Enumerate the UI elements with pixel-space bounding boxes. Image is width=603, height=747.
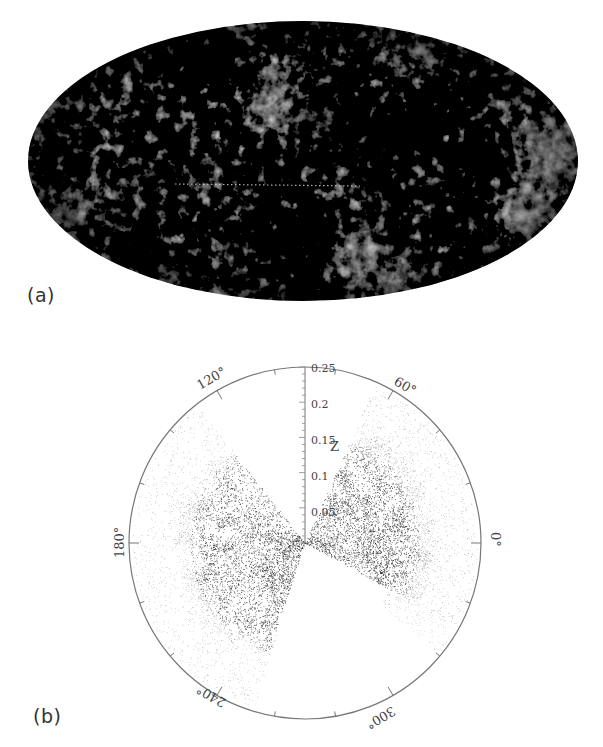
panel-label-b: (b) <box>33 705 61 727</box>
map-ellipse <box>28 21 579 302</box>
angle-label-240: 240° <box>194 682 229 711</box>
radial-tick-label-0.25: 0.25 <box>311 362 336 375</box>
all-sky-map <box>0 0 603 330</box>
redshift-wedge-plot: 0.25 0.2 0.15 0.1 0.05 Z 60° 120° 180° 2… <box>0 340 603 747</box>
radial-tick-label-0.05: 0.05 <box>311 506 336 519</box>
radial-tick-label-0.1: 0.1 <box>311 470 329 483</box>
radial-ticks <box>299 367 305 543</box>
angle-label-0: 0° <box>488 532 503 547</box>
angle-label-120: 120° <box>194 364 229 393</box>
angle-label-180: 180° <box>112 527 127 558</box>
radial-tick-label-0.2: 0.2 <box>311 398 329 411</box>
angle-label-60: 60° <box>392 374 419 399</box>
panel-label-a: (a) <box>27 284 55 306</box>
radial-axis-label: Z <box>330 439 339 454</box>
